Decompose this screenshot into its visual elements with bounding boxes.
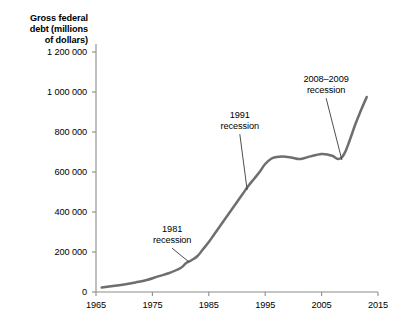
y-axis-tick-label: 1 200 000 bbox=[47, 47, 87, 57]
axis-title-line: Gross federal bbox=[30, 13, 88, 23]
y-axis-tick-label: 600 000 bbox=[54, 167, 87, 177]
annotation-leader-line bbox=[326, 98, 342, 160]
annotation-recession-1981: 1981recession bbox=[153, 224, 191, 262]
x-axis-tick-labels: 196519751985199520052015 bbox=[86, 292, 388, 310]
gross-federal-debt-line-chart: Gross federaldebt (millionsof dollars) 0… bbox=[0, 0, 411, 319]
x-axis-tick-label: 1995 bbox=[255, 300, 275, 310]
y-axis-tick-label: 400 000 bbox=[54, 207, 87, 217]
axis-title-line: of dollars) bbox=[45, 35, 88, 45]
y-axis-tick-labels: 0200 000400 000600 000800 0001 000 0001 … bbox=[47, 47, 96, 297]
y-axis-tick-label: 800 000 bbox=[54, 127, 87, 137]
annotation-label-line: recession bbox=[221, 121, 259, 131]
y-axis-tick-label: 200 000 bbox=[54, 247, 87, 257]
x-axis-tick-label: 1965 bbox=[86, 300, 106, 310]
chart-figure: Gross federaldebt (millionsof dollars) 0… bbox=[0, 0, 411, 319]
axis-title-line: debt (millions bbox=[30, 24, 88, 34]
x-axis-tick-label: 2005 bbox=[312, 300, 332, 310]
annotation-label-line: 1991 bbox=[230, 110, 250, 120]
y-axis-title: Gross federaldebt (millionsof dollars) bbox=[30, 13, 88, 45]
annotations: 1981recession1991recession2008–2009reces… bbox=[153, 74, 349, 262]
y-axis-tick-label: 1 000 000 bbox=[47, 87, 87, 97]
annotation-leader-line bbox=[172, 248, 189, 262]
x-axis-tick-label: 1985 bbox=[199, 300, 219, 310]
annotation-leader-line bbox=[240, 134, 247, 190]
x-axis-tick-label: 2015 bbox=[368, 300, 388, 310]
x-axis-tick-label: 1975 bbox=[142, 300, 162, 310]
y-axis-tick-label: 0 bbox=[82, 287, 87, 297]
annotation-recession-2008-2009: 2008–2009recession bbox=[304, 74, 349, 160]
annotation-label-line: recession bbox=[307, 85, 345, 95]
annotation-label-line: recession bbox=[153, 235, 191, 245]
annotation-label-line: 1981 bbox=[162, 224, 182, 234]
annotation-label-line: 2008–2009 bbox=[304, 74, 349, 84]
